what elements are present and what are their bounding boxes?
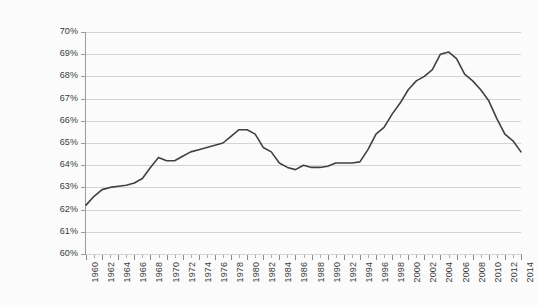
- line-chart: 70%69%68%67%66%65%64%63%62%61%60% 196019…: [0, 0, 538, 307]
- data-line: [86, 52, 521, 205]
- series-line: [0, 0, 538, 307]
